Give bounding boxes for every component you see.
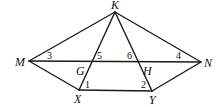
angle-label-6: 6: [127, 50, 132, 61]
segment-NY: [152, 62, 201, 91]
angle-label-3: 3: [47, 50, 52, 61]
segment-MN: [29, 61, 201, 62]
segment-KM: [29, 12, 115, 61]
point-label-G: G: [76, 64, 85, 78]
angle-labels: 356412: [47, 50, 181, 90]
angle-label-5: 5: [97, 50, 102, 61]
point-label-X: X: [73, 92, 82, 106]
segment-XY: [79, 90, 152, 91]
point-label-K: K: [110, 0, 120, 12]
point-label-Y: Y: [149, 93, 157, 107]
point-label-H: H: [142, 64, 153, 78]
segment-MX: [29, 61, 79, 90]
segment-KY: [115, 12, 152, 91]
point-label-M: M: [14, 55, 26, 69]
geometry-diagram: KMNXYGH 356412: [0, 0, 220, 107]
angle-label-2: 2: [141, 79, 146, 90]
point-label-N: N: [203, 56, 213, 70]
angle-label-4: 4: [176, 50, 181, 61]
angle-label-1: 1: [85, 79, 90, 90]
